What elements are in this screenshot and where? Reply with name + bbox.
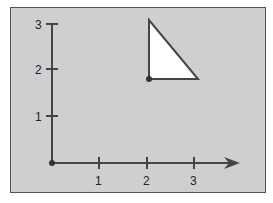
y-label-1: 1: [35, 110, 42, 124]
y-label-2: 2: [35, 63, 42, 77]
triangle-vertex-dot: [146, 76, 152, 82]
x-label-1: 1: [95, 174, 102, 188]
x-label-3: 3: [190, 174, 197, 188]
triangle-shape: [149, 20, 198, 79]
coordinate-plane: 3 2 1 1 2 3: [0, 0, 273, 203]
x-label-2: 2: [143, 174, 150, 188]
y-label-3: 3: [35, 18, 42, 32]
origin-dot: [49, 160, 55, 166]
